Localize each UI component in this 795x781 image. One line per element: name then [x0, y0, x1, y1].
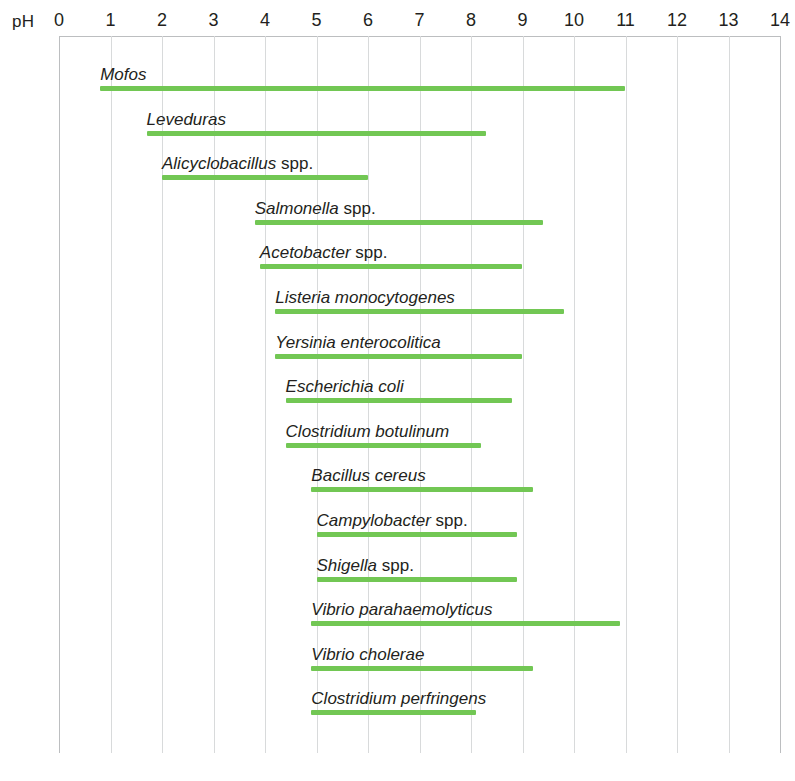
range-row: Listeria monocytogenes: [0, 272, 795, 316]
organism-name: Campylobacter: [317, 511, 431, 530]
organism-name: Acetobacter: [260, 243, 351, 262]
range-bar: [286, 443, 482, 448]
tick-label-13: 13: [718, 10, 738, 31]
range-row-label: Leveduras: [147, 110, 226, 129]
tick-label-1: 1: [105, 10, 115, 31]
range-row-label: Bacillus cereus: [311, 466, 425, 485]
range-row: Escherichia coli: [0, 361, 795, 405]
range-row: Vibrio parahaemolyticus: [0, 584, 795, 628]
range-row: Acetobacter spp.: [0, 227, 795, 271]
range-row-label: Clostridium perfringens: [311, 689, 486, 708]
range-row: Vibrio cholerae: [0, 629, 795, 673]
range-row: Alicyclobacillus spp.: [0, 138, 795, 182]
organism-qualifier: spp.: [339, 199, 376, 218]
tick-label-2: 2: [157, 10, 167, 31]
range-bar: [286, 398, 513, 403]
range-row-label: Mofos: [100, 65, 146, 84]
range-row: Salmonella spp.: [0, 183, 795, 227]
tick-label-4: 4: [260, 10, 270, 31]
range-row: Mofos: [0, 49, 795, 93]
axis-label-ph: pH: [12, 12, 34, 32]
range-row-label: Clostridium botulinum: [286, 422, 449, 441]
range-bar: [317, 577, 518, 582]
range-row-label: Escherichia coli: [286, 377, 404, 396]
organism-name: Vibrio parahaemolyticus: [311, 600, 492, 619]
organism-qualifier: spp.: [431, 511, 468, 530]
range-row-label: Shigella spp.: [317, 556, 414, 575]
tick-label-10: 10: [564, 10, 584, 31]
organism-name: Clostridium botulinum: [286, 422, 449, 441]
range-row: Bacillus cereus: [0, 450, 795, 494]
organism-name: Vibrio cholerae: [311, 645, 424, 664]
range-bar: [311, 666, 532, 671]
range-row-label: Listeria monocytogenes: [275, 288, 455, 307]
range-row-label: Yersinia enterocolitica: [275, 333, 440, 352]
range-bar: [255, 220, 543, 225]
organism-name: Bacillus cereus: [311, 466, 425, 485]
range-row-label: Alicyclobacillus spp.: [162, 154, 313, 173]
range-row: Clostridium perfringens: [0, 673, 795, 717]
range-bar: [275, 354, 522, 359]
range-bar: [311, 487, 532, 492]
tick-label-6: 6: [363, 10, 373, 31]
range-bar: [275, 309, 563, 314]
ph-range-chart: pH 01234567891011121314 MofosLevedurasAl…: [0, 0, 795, 781]
range-bar: [311, 621, 620, 626]
organism-name: Escherichia coli: [286, 377, 404, 396]
organism-qualifier: spp.: [351, 243, 388, 262]
range-bar: [317, 532, 518, 537]
range-row-label: Salmonella spp.: [255, 199, 376, 218]
range-row: Campylobacter spp.: [0, 495, 795, 539]
organism-name: Mofos: [100, 65, 146, 84]
range-row: Shigella spp.: [0, 540, 795, 584]
organism-qualifier: spp.: [377, 556, 414, 575]
tick-label-7: 7: [414, 10, 424, 31]
tick-label-8: 8: [466, 10, 476, 31]
tick-label-3: 3: [208, 10, 218, 31]
range-row: Yersinia enterocolitica: [0, 317, 795, 361]
tick-label-14: 14: [770, 10, 790, 31]
organism-name: Yersinia enterocolitica: [275, 333, 440, 352]
range-row-label: Vibrio parahaemolyticus: [311, 600, 492, 619]
tick-label-0: 0: [54, 10, 64, 31]
organism-name: Shigella: [317, 556, 378, 575]
tick-label-12: 12: [667, 10, 687, 31]
organism-name: Listeria monocytogenes: [275, 288, 455, 307]
range-bar: [162, 175, 368, 180]
tick-label-11: 11: [616, 10, 635, 31]
range-bar: [311, 710, 476, 715]
range-row: Clostridium botulinum: [0, 406, 795, 450]
range-bar: [260, 264, 523, 269]
range-row-label: Campylobacter spp.: [317, 511, 468, 530]
range-row-label: Acetobacter spp.: [260, 243, 388, 262]
organism-name: Alicyclobacillus: [162, 154, 276, 173]
range-row: Leveduras: [0, 94, 795, 138]
organism-name: Salmonella: [255, 199, 339, 218]
tick-label-5: 5: [311, 10, 321, 31]
range-row-label: Vibrio cholerae: [311, 645, 424, 664]
organism-name: Clostridium perfringens: [311, 689, 486, 708]
range-bar: [100, 86, 625, 91]
organism-qualifier: spp.: [276, 154, 313, 173]
tick-label-9: 9: [517, 10, 527, 31]
range-bar: [147, 131, 487, 136]
organism-name: Leveduras: [147, 110, 226, 129]
